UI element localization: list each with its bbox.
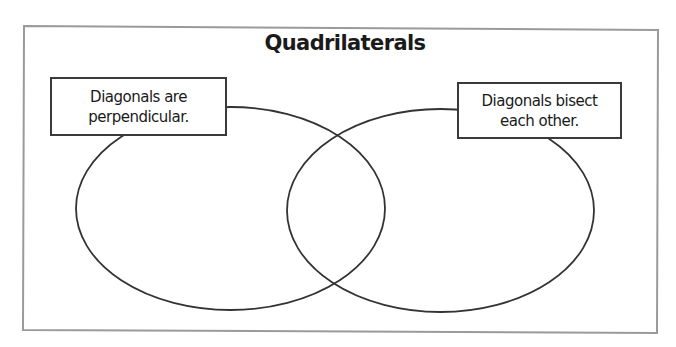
set-label-left: Diagonals are perpendicular. (50, 77, 227, 136)
set-label-right: Diagonals bisect each other. (457, 82, 622, 139)
diagram-title: Quadrilaterals (200, 30, 490, 56)
set-ellipse-right (287, 109, 594, 312)
venn-diagram: Quadrilaterals Diagonals are perpendicul… (0, 0, 676, 347)
set-label-left-line-1: Diagonals are (90, 87, 187, 107)
set-ellipse-left (76, 107, 385, 310)
set-label-right-line-2: each other. (500, 111, 579, 131)
set-label-left-line-2: perpendicular. (88, 107, 189, 127)
set-label-right-line-1: Diagonals bisect (482, 91, 598, 111)
